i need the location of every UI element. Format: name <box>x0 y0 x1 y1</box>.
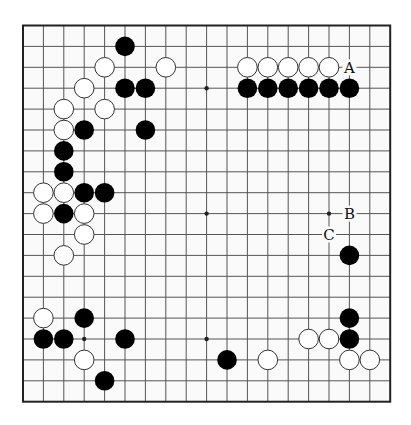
black-stone[interactable] <box>115 78 135 98</box>
black-stone[interactable] <box>74 120 94 140</box>
white-stone[interactable] <box>74 78 94 98</box>
star-point-icon <box>204 86 208 90</box>
black-stone[interactable] <box>54 329 74 349</box>
white-stone[interactable] <box>95 58 115 78</box>
black-stone[interactable] <box>54 141 74 161</box>
star-point-icon <box>82 337 86 341</box>
white-stone[interactable] <box>54 120 74 140</box>
white-stone[interactable] <box>54 99 74 119</box>
black-stone[interactable] <box>340 78 360 98</box>
star-point-icon <box>327 211 331 215</box>
white-stone[interactable] <box>238 58 258 78</box>
black-stone[interactable] <box>54 162 74 182</box>
white-stone[interactable] <box>258 350 278 370</box>
white-stone[interactable] <box>340 350 360 370</box>
black-stone[interactable] <box>319 78 339 98</box>
go-board[interactable]: ABC <box>0 0 411 425</box>
black-stone[interactable] <box>340 329 360 349</box>
white-stone[interactable] <box>74 204 94 224</box>
black-stone[interactable] <box>278 78 298 98</box>
white-stone[interactable] <box>74 350 94 370</box>
black-stone[interactable] <box>34 329 54 349</box>
black-stone[interactable] <box>217 350 237 370</box>
white-stone[interactable] <box>360 350 380 370</box>
black-stone[interactable] <box>115 37 135 57</box>
white-stone[interactable] <box>74 225 94 245</box>
black-stone[interactable] <box>136 120 156 140</box>
position-label-b: B <box>344 205 355 223</box>
black-stone[interactable] <box>258 78 278 98</box>
black-stone[interactable] <box>95 183 115 203</box>
white-stone[interactable] <box>54 246 74 266</box>
black-stone[interactable] <box>136 78 156 98</box>
white-stone[interactable] <box>299 58 319 78</box>
white-stone[interactable] <box>95 99 115 119</box>
white-stone[interactable] <box>299 329 319 349</box>
star-point-icon <box>204 337 208 341</box>
white-stone[interactable] <box>319 329 339 349</box>
white-stone[interactable] <box>258 58 278 78</box>
white-stone[interactable] <box>319 58 339 78</box>
white-stone[interactable] <box>34 204 54 224</box>
black-stone[interactable] <box>340 246 360 266</box>
black-stone[interactable] <box>54 204 74 224</box>
white-stone[interactable] <box>156 58 176 78</box>
black-stone[interactable] <box>95 371 115 391</box>
position-label-c: C <box>323 226 334 244</box>
white-stone[interactable] <box>34 308 54 328</box>
black-stone[interactable] <box>74 183 94 203</box>
white-stone[interactable] <box>278 58 298 78</box>
black-stone[interactable] <box>299 78 319 98</box>
position-label-a: A <box>343 59 355 77</box>
star-point-icon <box>204 211 208 215</box>
black-stone[interactable] <box>74 308 94 328</box>
white-stone[interactable] <box>54 183 74 203</box>
black-stone[interactable] <box>238 78 258 98</box>
black-stone[interactable] <box>340 308 360 328</box>
black-stone[interactable] <box>115 329 135 349</box>
white-stone[interactable] <box>34 183 54 203</box>
